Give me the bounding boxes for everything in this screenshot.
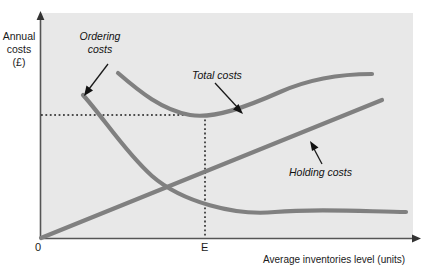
x-axis-title: Average inventories level (units)	[263, 253, 405, 266]
y-axis-title-line-1: Annual	[0, 30, 38, 43]
y-axis-title-line-2: costs	[0, 43, 38, 56]
ordering-costs-label-line-1: Ordering	[69, 30, 131, 43]
x-tick-label-origin: 0	[35, 241, 41, 253]
inventory-cost-chart	[0, 0, 427, 274]
y-axis-title-line-3: (£)	[0, 56, 38, 69]
ordering-costs-label: Ordering costs	[69, 30, 131, 56]
holding-costs-label: Holding costs	[289, 166, 352, 179]
ordering-costs-label-line-2: costs	[69, 43, 131, 56]
x-tick-label-eoq: E	[201, 241, 208, 253]
total-costs-label: Total costs	[192, 69, 242, 82]
y-axis-title: Annual costs (£)	[0, 30, 38, 69]
